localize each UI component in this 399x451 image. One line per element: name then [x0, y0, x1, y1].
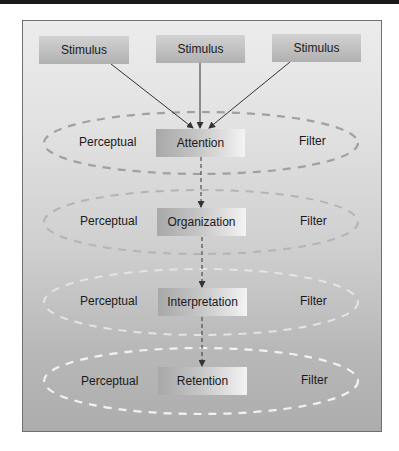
stage-label: Attention [177, 136, 224, 150]
filter-label: Filter [300, 214, 327, 228]
perceptual-label: Perceptual [80, 214, 137, 228]
filter-label: Filter [300, 294, 327, 308]
perceptual-label: Perceptual [81, 374, 138, 388]
stage-box-attention: Attention [156, 129, 245, 157]
stage-label: Organization [167, 215, 235, 229]
perceptual-label: Perceptual [80, 294, 137, 308]
stage-label: Retention [177, 374, 228, 388]
stage-label: Interpretation [167, 295, 238, 309]
stimulus-box-2: Stimulus [156, 35, 245, 63]
stimulus-label: Stimulus [177, 42, 223, 56]
filter-label: Filter [299, 134, 326, 148]
stage-box-interpretation: Interpretation [158, 288, 247, 316]
stimulus-label: Stimulus [61, 43, 107, 57]
stimulus-label: Stimulus [293, 41, 339, 55]
top-rule [0, 0, 399, 4]
stimulus-box-3: Stimulus [272, 34, 361, 62]
filter-label: Filter [301, 373, 328, 387]
stimulus-box-1: Stimulus [39, 36, 129, 64]
stage-box-organization: Organization [157, 208, 246, 236]
perceptual-label: Perceptual [79, 135, 136, 149]
stage-box-retention: Retention [158, 367, 247, 395]
